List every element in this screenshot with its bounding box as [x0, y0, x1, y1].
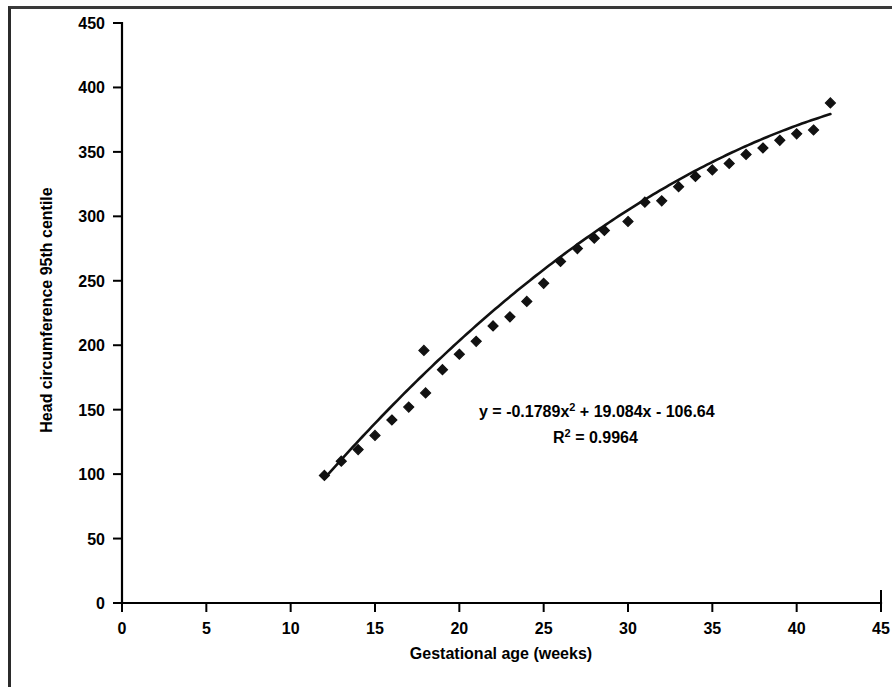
y-axis-title: Head circumference 95th centile: [38, 187, 55, 433]
x-tick-label: 20: [450, 620, 468, 637]
y-tick-label: 250: [78, 273, 105, 290]
scatter-chart: 050100150200250300350400450 051015202530…: [0, 0, 893, 687]
x-tick-label: 30: [619, 620, 637, 637]
x-tick-label: 10: [282, 620, 300, 637]
y-tick-label: 450: [78, 15, 105, 32]
y-tick-label: 100: [78, 466, 105, 483]
x-tick-label: 5: [202, 620, 211, 637]
y-tick-label: 350: [78, 144, 105, 161]
y-tick-label: 200: [78, 337, 105, 354]
y-axis-ticks: 050100150200250300350400450: [78, 15, 122, 612]
y-tick-label: 50: [87, 531, 105, 548]
x-tick-label: 0: [118, 620, 127, 637]
x-tick-label: 25: [535, 620, 553, 637]
y-tick-label: 300: [78, 208, 105, 225]
x-tick-label: 40: [788, 620, 806, 637]
plot-area-background: [122, 20, 882, 605]
y-tick-label: 400: [78, 79, 105, 96]
x-tick-label: 45: [872, 620, 890, 637]
x-tick-label: 35: [703, 620, 721, 637]
trendline-equation-annotation: y = -0.1789x2 + 19.084x - 106.64: [479, 401, 715, 420]
x-tick-label: 15: [366, 620, 384, 637]
figure-root: 050100150200250300350400450 051015202530…: [0, 0, 893, 687]
x-axis-ticks: 051015202530354045: [118, 603, 890, 637]
y-tick-label: 0: [96, 595, 105, 612]
x-axis-title: Gestational age (weeks): [410, 645, 592, 662]
y-tick-label: 150: [78, 402, 105, 419]
